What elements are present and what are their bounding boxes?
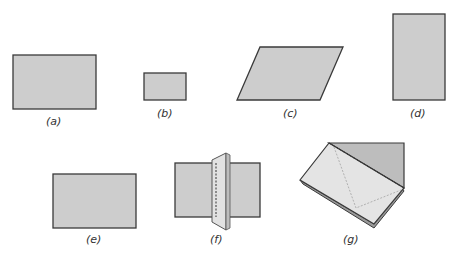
panel-g: (g) bbox=[300, 143, 404, 246]
strip-edge-f bbox=[226, 153, 230, 230]
panel-b: (b) bbox=[144, 73, 186, 120]
label-a: (a) bbox=[46, 115, 61, 128]
label-e: (e) bbox=[86, 233, 101, 246]
rectangle-e bbox=[53, 174, 136, 228]
parallelogram-c bbox=[237, 47, 343, 100]
panel-f: (f) bbox=[175, 153, 260, 246]
label-b: (b) bbox=[157, 107, 173, 120]
label-d: (d) bbox=[410, 107, 426, 120]
panel-d: (d) bbox=[393, 14, 445, 120]
panel-e: (e) bbox=[53, 174, 136, 246]
label-f: (f) bbox=[210, 233, 222, 246]
rectangle-b bbox=[144, 73, 186, 100]
label-g: (g) bbox=[343, 233, 359, 246]
label-c: (c) bbox=[283, 107, 298, 120]
panel-c: (c) bbox=[237, 47, 343, 120]
rectangle-d bbox=[393, 14, 445, 100]
shapes-diagram: (a) (b) (c) (d) (e) (f) (g) bbox=[0, 0, 460, 259]
rectangle-a bbox=[13, 55, 96, 109]
folded-strip-f bbox=[212, 153, 226, 230]
panel-a: (a) bbox=[13, 55, 96, 128]
